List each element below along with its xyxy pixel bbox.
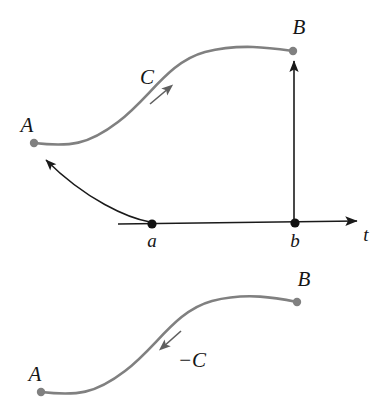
label-axis-t: t <box>363 224 369 245</box>
axis-point-b-dot <box>290 218 299 227</box>
label-bottom-A: A <box>27 362 42 386</box>
point-A-dot <box>30 139 38 147</box>
bottom-panel: A B −C <box>27 267 311 396</box>
axis-point-a-dot <box>147 219 156 228</box>
label-axis-b: b <box>290 230 300 251</box>
figure-root: A B C a b t A B −C <box>0 0 385 415</box>
label-curve-minus-C: −C <box>178 348 207 372</box>
point-B-dot <box>289 47 297 55</box>
label-curve-C: C <box>140 65 155 89</box>
map-arrow-a-to-A <box>46 160 150 222</box>
label-bottom-B: B <box>298 267 311 291</box>
label-axis-a: a <box>147 230 157 251</box>
top-panel: A B C a b t <box>19 15 370 251</box>
label-top-A: A <box>19 113 34 137</box>
bottom-point-A-dot <box>37 388 45 396</box>
curve-minus-C-path <box>41 296 297 393</box>
label-top-B: B <box>293 15 306 39</box>
bottom-point-B-dot <box>293 298 301 306</box>
curve-C-path <box>34 47 293 145</box>
diagram-canvas: A B C a b t A B −C <box>0 0 385 415</box>
